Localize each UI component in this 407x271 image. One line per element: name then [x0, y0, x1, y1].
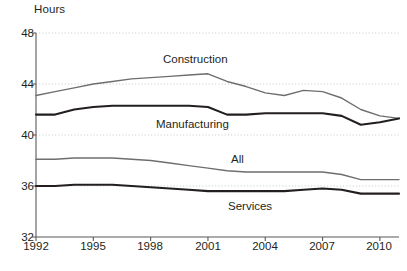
x-tick-2001: 2001 [195, 240, 221, 252]
x-tick-2004: 2004 [252, 240, 278, 252]
y-axis-unit-label: Hours [34, 3, 65, 15]
y-tick-40: 40 [8, 129, 34, 141]
x-tick-2007: 2007 [309, 240, 335, 252]
x-tick-1998: 1998 [137, 240, 163, 252]
x-tick-2010: 2010 [366, 240, 392, 252]
y-tick-36: 36 [8, 180, 34, 192]
x-tick-1995: 1995 [80, 240, 106, 252]
series-path-all [36, 158, 399, 180]
y-axis-tick-labels: 48 44 40 36 32 [0, 0, 34, 271]
series-label-manufacturing: Manufacturing [156, 118, 229, 130]
series-label-construction: Construction [163, 53, 228, 65]
line-chart: Hours 48 44 40 36 32 1992 1995 1998 2001… [0, 0, 407, 271]
y-tick-44: 44 [8, 78, 34, 90]
series-lines [36, 74, 399, 194]
y-tick-48: 48 [8, 27, 34, 39]
x-tick-1992: 1992 [23, 240, 49, 252]
series-label-all: All [231, 153, 244, 165]
series-label-services: Services [228, 200, 272, 212]
